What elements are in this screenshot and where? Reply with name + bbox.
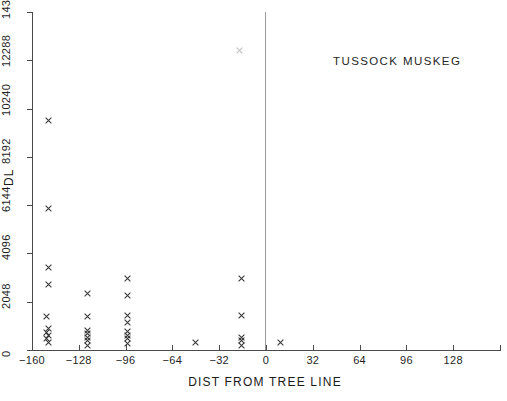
data-point-marker	[124, 275, 131, 282]
x-tick-label: −96	[116, 354, 136, 366]
y-tick	[27, 157, 33, 158]
y-tick-label-text: 10240	[0, 83, 12, 115]
x-tick	[266, 345, 267, 351]
x-tick	[453, 345, 454, 351]
x-tick-label: −64	[163, 354, 183, 366]
x-tick-label: 0	[263, 354, 269, 366]
x-tick-label: −160	[19, 354, 45, 366]
x-tick	[406, 345, 407, 351]
x-tick-label: 64	[353, 354, 366, 366]
y-axis-title: DL	[2, 186, 19, 200]
data-point-marker	[236, 47, 243, 54]
y-axis-title-text: DL	[2, 169, 16, 186]
data-point-marker	[124, 319, 131, 326]
data-point-marker	[238, 275, 245, 282]
y-tick-label: 14336	[0, 19, 32, 31]
zero-reference-line	[265, 12, 266, 350]
y-tick	[27, 350, 33, 351]
x-tick-label: −128	[66, 354, 92, 366]
x-tick	[313, 345, 314, 351]
data-point-marker	[45, 205, 52, 212]
y-tick-label-text: 2048	[0, 283, 12, 309]
x-tick	[79, 345, 80, 351]
y-tick	[27, 253, 33, 254]
data-point-marker	[124, 312, 131, 319]
data-point-marker	[238, 312, 245, 319]
data-point-marker	[45, 339, 52, 346]
x-tick	[360, 345, 361, 351]
data-point-marker	[45, 264, 52, 271]
y-tick-label: 2048	[0, 309, 26, 321]
y-tick-label: 12288	[0, 67, 32, 79]
data-point-marker	[124, 340, 131, 347]
y-tick-label-text: 4096	[0, 235, 12, 261]
plot-title: TUSSOCK MUSKEG	[333, 55, 461, 67]
y-tick-label-text: 14336	[0, 0, 12, 19]
y-axis-line	[32, 12, 33, 351]
y-tick	[27, 60, 33, 61]
x-tick-label: 96	[400, 354, 413, 366]
data-point-marker	[277, 339, 284, 346]
x-tick-label: 128	[444, 354, 463, 366]
y-tick-label: 10240	[0, 116, 32, 128]
x-tick	[219, 345, 220, 351]
data-point-marker	[45, 117, 52, 124]
data-point-marker	[84, 342, 91, 349]
y-tick-label: 6144	[0, 212, 26, 224]
x-tick	[500, 345, 501, 351]
data-point-marker	[84, 313, 91, 320]
y-tick-label: 4096	[0, 260, 26, 272]
y-tick-label-text: 12288	[0, 35, 12, 67]
y-tick	[27, 205, 33, 206]
scatter-chart: TUSSOCK MUSKEG −160−128−96−64−3203264961…	[0, 0, 507, 401]
y-tick-label: 0	[0, 357, 6, 369]
data-point-marker	[124, 292, 131, 299]
x-tick	[172, 345, 173, 351]
y-tick-label-text: 0	[0, 351, 12, 357]
data-point-marker	[192, 339, 199, 346]
data-point-marker	[43, 313, 50, 320]
data-point-marker	[45, 281, 52, 288]
x-tick-label: 32	[306, 354, 319, 366]
y-tick-label-text: 8192	[0, 138, 12, 164]
x-axis-title: DIST FROM TREE LINE	[188, 375, 342, 389]
y-tick	[27, 109, 33, 110]
x-tick-label: −32	[209, 354, 229, 366]
y-tick	[27, 12, 33, 13]
data-point-marker	[238, 342, 245, 349]
data-point-marker	[84, 290, 91, 297]
y-tick	[27, 302, 33, 303]
